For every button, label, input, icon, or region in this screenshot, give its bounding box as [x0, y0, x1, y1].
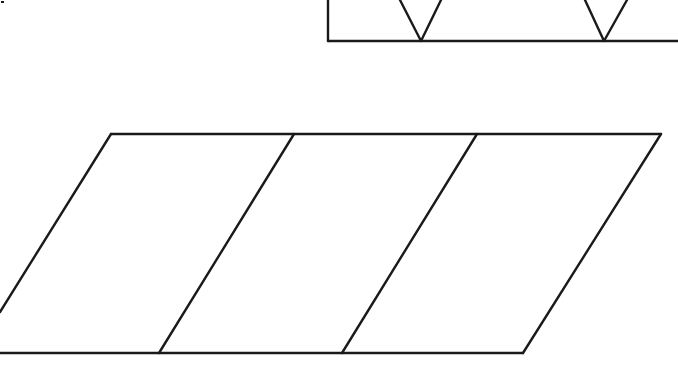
- diagram-canvas: [0, 0, 678, 368]
- background: [0, 0, 678, 368]
- stray-mark: [1, 1, 4, 3]
